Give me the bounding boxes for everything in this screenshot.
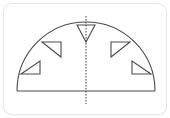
figure-card	[3, 3, 167, 115]
notch-upper-left	[42, 42, 61, 57]
semicircle-diagram	[4, 4, 168, 116]
notch-upper-right	[111, 42, 130, 57]
notch-lower-right	[132, 61, 151, 74]
notch-top-center	[77, 25, 95, 42]
notch-lower-left	[21, 61, 40, 74]
